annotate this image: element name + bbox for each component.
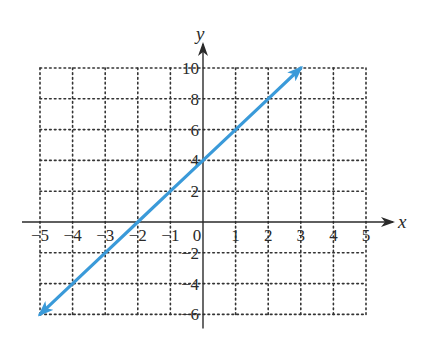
y-tick-label: −2 <box>181 244 199 263</box>
x-tick-label: 0 <box>193 226 202 245</box>
x-tick-label: −3 <box>96 226 114 245</box>
x-tick-label: −1 <box>161 226 179 245</box>
x-axis-label: x <box>397 211 407 232</box>
x-tick-label: 5 <box>362 226 371 245</box>
y-tick-label: −6 <box>181 305 199 324</box>
y-tick-label: 10 <box>182 59 199 78</box>
x-tick-label: 3 <box>297 226 306 245</box>
y-tick-label: 6 <box>191 121 200 140</box>
x-tick-label: 4 <box>329 226 338 245</box>
y-axis-label: y <box>194 23 205 44</box>
axes <box>22 44 393 328</box>
x-tick-label: 1 <box>231 226 240 245</box>
y-tick-label: −4 <box>181 275 200 294</box>
x-tick-label: −5 <box>31 226 49 245</box>
y-tick-label: 8 <box>191 90 200 109</box>
y-tick-label: 2 <box>191 182 200 201</box>
x-tick-label: −4 <box>64 226 83 245</box>
x-tick-label: 2 <box>264 226 273 245</box>
line-graph: −5−4−3−2−1012345−6−4−2246810 x y <box>0 0 436 347</box>
